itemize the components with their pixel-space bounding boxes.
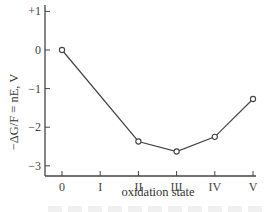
data-point-marker [136,139,141,144]
series-line [62,50,253,152]
x-tick-label: I [98,180,102,194]
y-tick-label: −1 [28,82,41,96]
x-axis-label: oxidation state [121,185,195,199]
x-tick-label: V [249,180,258,194]
y-tick-label: +1 [28,4,41,18]
x-tick-label: 0 [59,180,65,194]
frost-diagram-chart: +10−1−2−3 0IIIIIIIVV −ΔG/F = nE, V oxida… [0,0,266,206]
y-axis-ticks: +10−1−2−3 [28,4,50,172]
data-point-marker [174,149,179,154]
data-series [59,47,255,154]
figure-caption-cutoff [48,206,263,212]
y-tick-label: −3 [28,159,41,173]
data-point-marker [59,47,64,52]
data-point-marker [212,134,217,139]
y-tick-label: −2 [28,120,41,134]
y-axis-label: −ΔG/F = nE, V [7,74,21,151]
y-tick-label: 0 [35,43,41,57]
axes [45,5,256,176]
x-tick-label: IV [208,180,221,194]
data-point-marker [250,96,255,101]
